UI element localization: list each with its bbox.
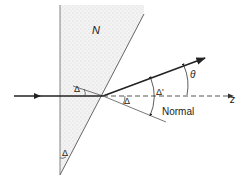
internal-angle-label: Δ' [156,88,164,97]
angle-arc-internal [150,79,154,116]
normal-label: Normal [162,107,194,117]
angle-arc-deviation [184,66,188,95]
refraction-angle-label: Δ [124,97,130,106]
deviation-angle-label: θ [190,70,195,80]
apex-angle-label: Δ [62,149,68,158]
prism-wedge [60,0,146,175]
normal-line [103,96,166,122]
incident-arrow-icon [34,93,41,99]
axis-label: z [230,95,235,105]
incidence-angle-label: Δ [74,85,80,94]
prism-refraction-diagram: N Δ Δ Δ' θ z Normal Δ [0,0,248,185]
medium-label: N [92,25,100,36]
